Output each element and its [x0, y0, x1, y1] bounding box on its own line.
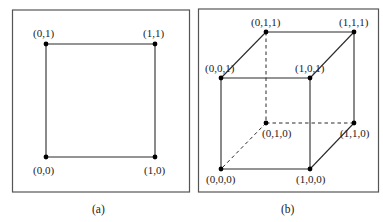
panel-a-caption: (a) [92, 203, 105, 216]
square-vertices [44, 42, 158, 160]
vertex-dot [153, 155, 158, 160]
vertex-label-100: (1,0,0) [296, 173, 326, 186]
vertex-label-000: (0,0,0) [206, 173, 236, 186]
vertex-dot [308, 167, 313, 172]
square-edges [46, 44, 155, 157]
vertex-dot [264, 30, 269, 35]
vertex-label-11: (1,1) [143, 27, 164, 40]
vertex-label-10: (1,0) [144, 164, 165, 177]
vertex-dot [308, 76, 313, 81]
vertex-dot [264, 121, 269, 126]
vertex-dot [219, 167, 224, 172]
vertex-label-01: (0,1) [33, 27, 54, 40]
vertex-label-011: (0,1,1) [251, 16, 281, 29]
vertex-label-111: (1,1,1) [339, 16, 369, 29]
panel-b-caption: (b) [281, 203, 295, 216]
vertex-label-101: (1,0,1) [295, 62, 325, 75]
vertex-dot [44, 155, 49, 160]
panel-b: (0,1,1) (1,1,1) (0,0,1) (1,0,1) (0,1,0) … [199, 9, 379, 216]
vertex-dot [352, 30, 357, 35]
hidden-edge [221, 123, 266, 169]
hypercube-figure: (0,1) (1,1) (0,0) (1,0) (a) [0, 0, 383, 222]
vertex-dot [44, 42, 49, 47]
vertex-dot [352, 121, 357, 126]
vertex-label-110: (1,1,0) [340, 127, 370, 140]
vertex-label-001: (0,0,1) [205, 62, 235, 75]
panel-b-frame [199, 9, 379, 192]
panel-a: (0,1) (1,1) (0,0) (1,0) (a) [13, 10, 190, 216]
vertex-dot [219, 76, 224, 81]
vertex-label-00: (0,0) [33, 164, 54, 177]
vertex-dot [153, 42, 158, 47]
vertex-label-010: (0,1,0) [262, 127, 292, 140]
